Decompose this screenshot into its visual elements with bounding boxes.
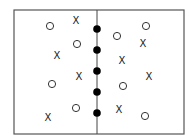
- filled-point-icon: [93, 67, 101, 75]
- open-circle-icon: [142, 22, 149, 29]
- scatter-diagram: XXXXXXXX: [0, 0, 189, 140]
- x-mark-icon: X: [73, 15, 80, 26]
- filled-point-icon: [93, 46, 101, 54]
- open-circle-icon: [141, 112, 148, 119]
- x-mark-icon: X: [76, 71, 83, 82]
- x-mark-icon: X: [146, 71, 153, 82]
- x-mark-icon: X: [54, 50, 61, 61]
- open-circle-icon: [46, 22, 53, 29]
- x-mark-icon: X: [119, 55, 126, 66]
- open-circle-icon: [48, 80, 55, 87]
- open-circle-icon: [119, 82, 126, 89]
- x-mark-icon: X: [116, 104, 123, 115]
- x-mark-icon: X: [45, 112, 52, 123]
- filled-point-icon: [93, 88, 101, 96]
- filled-point-icon: [93, 109, 101, 117]
- filled-point-icon: [93, 25, 101, 33]
- open-circle-icon: [72, 104, 79, 111]
- open-circle-icon: [113, 32, 120, 39]
- open-circle-icon: [73, 40, 80, 47]
- x-mark-icon: X: [140, 38, 147, 49]
